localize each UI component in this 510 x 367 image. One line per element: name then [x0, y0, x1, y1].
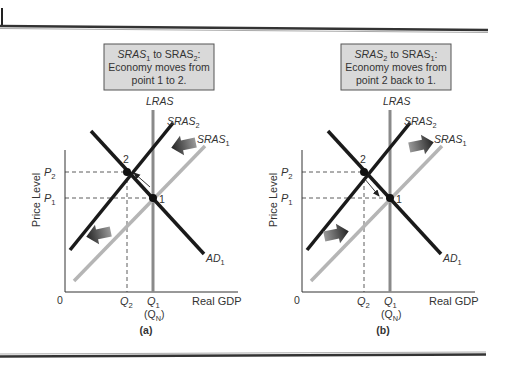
panel-caption: (b) — [376, 324, 389, 336]
sras1-label: SRAS1 — [434, 133, 467, 148]
p1-label: P1 — [281, 192, 293, 207]
panel-a: SRAS1 to SRAS2:Economy moves frompoint 1… — [30, 44, 242, 336]
x-axis-label: Real GDP — [192, 295, 242, 307]
bottom-rule — [0, 352, 486, 357]
origin-label: 0 — [294, 294, 300, 306]
point-2-label: 2 — [360, 153, 366, 165]
sras1-label: SRAS1 — [197, 133, 230, 148]
qn-label: (QN) — [144, 308, 164, 323]
sras2-label: SRAS2 — [404, 115, 437, 130]
callout-line-3: point 2 back to 1. — [356, 74, 436, 86]
shift-arrow-upper — [407, 133, 436, 158]
p1-label: P1 — [44, 192, 56, 207]
p2-label: P2 — [44, 166, 56, 181]
q2-label: Q2 — [357, 295, 370, 310]
callout-line-2: Economy moves from — [345, 61, 447, 73]
top-rule — [0, 8, 488, 33]
point-2 — [123, 168, 131, 176]
figure: SRAS1 to SRAS2:Economy moves frompoint 1… — [0, 0, 510, 367]
point-1-label: 1 — [159, 193, 165, 205]
lras-label: LRAS — [383, 95, 410, 107]
lras-label: LRAS — [146, 95, 173, 107]
point-2 — [360, 168, 368, 176]
ad1-label: AD1 — [205, 252, 225, 267]
x-axis-label: Real GDP — [429, 295, 479, 307]
point-1-label: 1 — [396, 193, 402, 205]
panel-b: SRAS2 to SRAS1:Economy moves frompoint 2… — [267, 44, 479, 336]
qn-label: (QN) — [381, 308, 401, 323]
q2-label: Q2 — [120, 295, 133, 310]
panel-caption: (a) — [140, 324, 153, 336]
callout-line-2: Economy moves from — [108, 61, 210, 73]
sras2-label: SRAS2 — [167, 115, 200, 130]
point-1 — [386, 194, 394, 202]
point-2-label: 2 — [123, 153, 129, 165]
p2-label: P2 — [281, 166, 293, 181]
y-axis-label: Price Level — [30, 173, 42, 227]
shift-arrow-upper — [169, 133, 198, 158]
point-1 — [149, 194, 157, 202]
ad1-label: AD1 — [442, 252, 462, 267]
origin-label: 0 — [57, 294, 63, 306]
y-axis-label: Price Level — [267, 173, 279, 227]
callout-line-3: point 1 to 2. — [132, 74, 187, 86]
